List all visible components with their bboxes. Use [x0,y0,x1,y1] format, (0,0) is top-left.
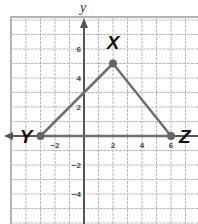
grid-border [11,17,198,224]
x-tick-label: −2 [50,141,60,150]
y-axis-label: y [78,0,87,15]
vertex-point-x [109,60,117,68]
coordinate-plane: y −2246642−2−4 XYZ [0,0,198,224]
triangle-edges [41,64,172,137]
vertex-point-z [167,132,175,140]
y-tick-label: 2 [77,103,82,112]
x-tick-label: 2 [111,141,116,150]
y-tick-label: −4 [72,190,82,199]
x-tick-label: 6 [169,141,174,150]
x-tick-label: 4 [140,141,145,150]
vertex-point-y [37,132,45,140]
y-tick-label: 6 [77,45,82,54]
axes: y [4,0,198,224]
y-tick-label: −2 [72,161,82,170]
y-tick-label: 4 [77,74,82,83]
triangle-xyz [41,64,172,137]
vertex-label-x: X [106,32,121,53]
grid [11,17,198,224]
vertex-label-z: Z [178,126,192,147]
x-axis-arrow-icon [4,132,13,140]
